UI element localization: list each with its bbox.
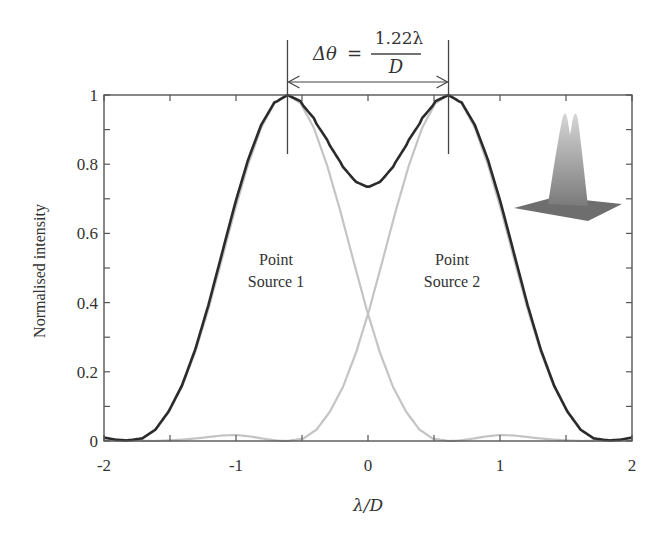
- y-tick-label: 0.4: [77, 294, 99, 313]
- combined-intensity-curve: [104, 95, 632, 440]
- y-tick-label: 0.8: [77, 155, 98, 174]
- formula-delta-theta: Δθ: [312, 43, 337, 64]
- x-tick-label: 1: [496, 456, 505, 475]
- x-tick-label: -1: [229, 456, 243, 475]
- y-tick-label: 0: [90, 432, 99, 451]
- inset-3d-surface-plot: [514, 114, 622, 222]
- point-source-2-label-line2: Source 2: [424, 273, 480, 290]
- axis-ticks: -2-101200.20.40.60.81: [77, 86, 637, 475]
- formula-denominator: D: [388, 56, 404, 77]
- point-source-2-label-line1: Point: [435, 251, 469, 268]
- x-tick-label: 0: [364, 456, 373, 475]
- point-source-2-curve: [104, 95, 632, 441]
- x-axis-title: λ/D: [352, 495, 384, 515]
- y-tick-label: 0.6: [77, 224, 98, 243]
- formula-numerator: 1.22λ: [375, 28, 424, 48]
- point-source-1-label-line2: Source 1: [248, 273, 304, 290]
- plot-frame: [104, 95, 632, 441]
- y-tick-label: 1: [90, 86, 99, 105]
- x-tick-label: 2: [628, 456, 637, 475]
- x-tick-label: -2: [97, 456, 111, 475]
- point-source-1-label-line1: Point: [259, 251, 293, 268]
- resolution-chart: -2-101200.20.40.60.81 Δθ = 1.22λ D Norma…: [0, 0, 660, 541]
- y-tick-label: 0.2: [77, 363, 98, 382]
- axes-frame: [104, 95, 632, 441]
- y-axis-title: Normalised intensity: [31, 204, 49, 338]
- formula-equals: =: [347, 43, 362, 64]
- point-source-1-curve: [104, 95, 632, 441]
- curves: [104, 95, 632, 441]
